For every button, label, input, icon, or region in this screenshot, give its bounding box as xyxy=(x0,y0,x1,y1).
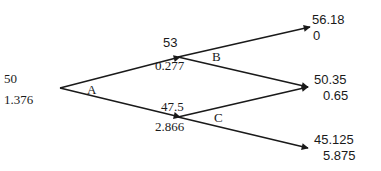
ud-sub: 0.65 xyxy=(323,88,348,103)
dd-value: 45.125 xyxy=(314,132,354,147)
edge-down-ud xyxy=(178,87,308,117)
node-label-c: C xyxy=(214,110,223,125)
down-sub: 2.866 xyxy=(155,119,185,134)
down-value: 47.5 xyxy=(161,99,184,114)
root-value: 50 xyxy=(4,71,17,86)
dd-sub: 5.875 xyxy=(323,148,356,163)
binomial-tree-diagram: 50 1.376 A 53 0.277 B 47.5 2.866 C 56.18… xyxy=(0,0,381,171)
up-sub: 0.277 xyxy=(155,58,185,73)
node-label-a: A xyxy=(87,82,97,97)
up-value: 53 xyxy=(163,35,177,50)
root-sub: 1.376 xyxy=(4,92,34,107)
edge-down-dd xyxy=(178,117,308,148)
ud-value: 50.35 xyxy=(314,72,347,87)
node-label-b: B xyxy=(212,49,221,64)
uu-value: 56.18 xyxy=(312,12,345,27)
edge-up-uu xyxy=(178,27,310,57)
uu-sub: 0 xyxy=(313,28,320,43)
edge-up-ud xyxy=(178,57,308,87)
